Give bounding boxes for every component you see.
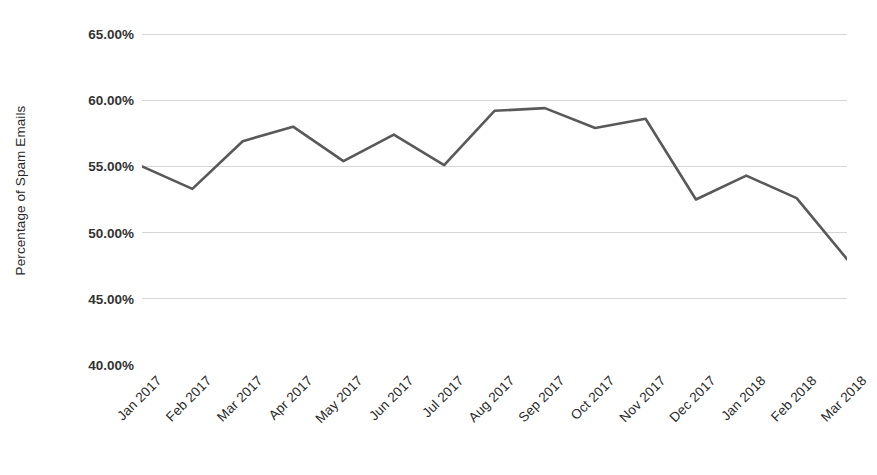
x-tick-label: Oct 2017	[568, 373, 618, 423]
x-tick-label: Sep 2017	[515, 373, 567, 425]
y-tick-label: 50.00%	[42, 225, 134, 240]
x-tick-label: Mar 2018	[818, 373, 870, 425]
grid-lines	[142, 34, 847, 365]
y-tick-label: 60.00%	[42, 93, 134, 108]
y-tick-label: 55.00%	[42, 159, 134, 174]
plot-svg	[142, 34, 847, 365]
y-tick-label: 65.00%	[42, 27, 134, 42]
x-tick-label: Mar 2017	[214, 373, 266, 425]
x-tick-label: Feb 2017	[163, 373, 215, 425]
plot-area	[142, 34, 847, 365]
x-tick-label: Jan 2017	[114, 373, 164, 423]
y-tick-label: 40.00%	[42, 358, 134, 373]
series-lines	[142, 108, 847, 259]
x-tick-label: Dec 2017	[666, 373, 718, 425]
x-tick-label: Nov 2017	[616, 373, 668, 425]
x-tick-label: Jul 2017	[419, 373, 466, 420]
y-axis-tick-labels: 65.00%60.00%55.00%50.00%45.00%40.00%	[34, 34, 134, 365]
y-axis-title-text: Percentage of Spam Emails	[14, 105, 29, 275]
x-tick-label: Apr 2017	[266, 373, 316, 423]
x-tick-label: Aug 2017	[465, 373, 517, 425]
x-tick-label: Jun 2017	[366, 373, 416, 423]
spam-email-line-chart: Percentage of Spam Emails 65.00%60.00%55…	[0, 0, 877, 475]
y-tick-label: 45.00%	[42, 291, 134, 306]
x-tick-label: May 2017	[313, 373, 366, 426]
x-axis-tick-labels: Jan 2017Feb 2017Mar 2017Apr 2017May 2017…	[142, 365, 847, 475]
x-tick-label: Jan 2018	[718, 373, 768, 423]
x-tick-label: Feb 2018	[768, 373, 820, 425]
series-line	[142, 108, 847, 259]
